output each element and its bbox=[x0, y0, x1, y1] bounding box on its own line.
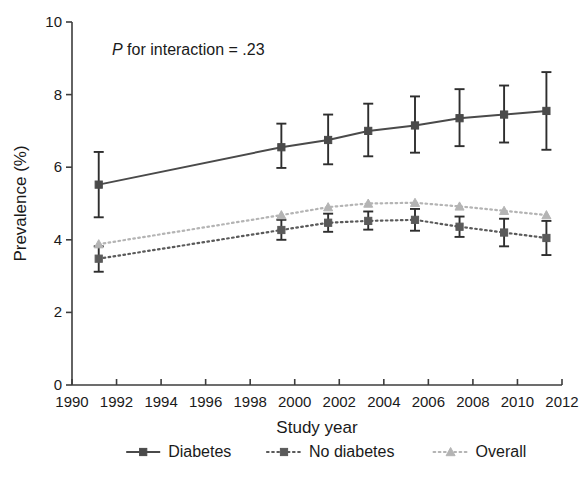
legend-label: Diabetes bbox=[168, 443, 231, 460]
data-point-marker bbox=[365, 217, 372, 224]
series-diabetes bbox=[94, 72, 552, 217]
data-point-marker bbox=[365, 127, 372, 134]
data-point-marker bbox=[500, 229, 507, 236]
y-axis-ticks: 0246810 bbox=[45, 13, 72, 393]
data-point-marker bbox=[325, 136, 332, 143]
y-tick-label: 8 bbox=[54, 86, 62, 103]
x-axis-title: Study year bbox=[276, 418, 358, 437]
x-axis-ticks: 1990199219941996199820002002200420062008… bbox=[55, 379, 578, 410]
chart-legend: DiabetesNo diabetesOverall bbox=[126, 443, 526, 460]
p-for-interaction-annotation: P for interaction = .23 bbox=[112, 41, 265, 58]
x-tick-label: 2008 bbox=[456, 393, 489, 410]
x-axis: 1990199219941996199820002002200420062008… bbox=[55, 379, 578, 437]
x-tick-label: 1998 bbox=[233, 393, 266, 410]
data-point-marker bbox=[280, 448, 287, 455]
data-point-marker bbox=[140, 448, 147, 455]
data-point-marker bbox=[543, 234, 550, 241]
legend-item-diabetes[interactable]: Diabetes bbox=[126, 443, 231, 460]
series-line bbox=[99, 220, 547, 259]
data-point-marker bbox=[542, 211, 551, 219]
y-tick-label: 0 bbox=[54, 376, 62, 393]
data-point-marker bbox=[456, 115, 463, 122]
y-tick-label: 2 bbox=[54, 303, 62, 320]
data-point-marker bbox=[411, 216, 418, 223]
series-layer bbox=[94, 72, 552, 272]
legend-label: No diabetes bbox=[309, 443, 394, 460]
x-tick-label: 2002 bbox=[323, 393, 356, 410]
legend-item-no-diabetes[interactable]: No diabetes bbox=[267, 443, 394, 460]
x-tick-label: 2000 bbox=[278, 393, 311, 410]
data-point-marker bbox=[94, 240, 103, 248]
x-tick-label: 2004 bbox=[367, 393, 400, 410]
x-tick-label: 2006 bbox=[412, 393, 445, 410]
x-tick-label: 1992 bbox=[100, 393, 133, 410]
annotation-rest: for interaction = .23 bbox=[123, 41, 265, 58]
x-tick-label: 2010 bbox=[501, 393, 534, 410]
prevalence-by-study-year-chart: 0246810 Prevalence (%) 19901992199419961… bbox=[0, 0, 588, 478]
chart-canvas: 0246810 Prevalence (%) 19901992199419961… bbox=[0, 0, 588, 478]
annotation-italic-p: P bbox=[112, 41, 123, 58]
data-point-marker bbox=[278, 226, 285, 233]
y-axis-title: Prevalence (%) bbox=[11, 145, 30, 261]
x-tick-label: 1996 bbox=[189, 393, 222, 410]
data-point-marker bbox=[500, 111, 507, 118]
y-axis: 0246810 Prevalence (%) bbox=[11, 13, 72, 393]
legend-item-overall[interactable]: Overall bbox=[434, 443, 527, 460]
data-point-marker bbox=[325, 219, 332, 226]
series-no-diabetes bbox=[94, 209, 552, 272]
series-line bbox=[99, 111, 547, 185]
data-point-marker bbox=[543, 107, 550, 114]
data-point-marker bbox=[95, 181, 102, 188]
data-point-marker bbox=[411, 122, 418, 129]
legend-label: Overall bbox=[476, 443, 527, 460]
data-point-marker bbox=[456, 223, 463, 230]
y-tick-label: 4 bbox=[54, 231, 62, 248]
data-point-marker bbox=[95, 255, 102, 262]
x-tick-label: 2012 bbox=[545, 393, 578, 410]
data-point-marker bbox=[278, 144, 285, 151]
y-tick-label: 6 bbox=[54, 158, 62, 175]
x-tick-label: 1994 bbox=[144, 393, 177, 410]
x-tick-label: 1990 bbox=[55, 393, 88, 410]
y-tick-label: 10 bbox=[45, 13, 62, 30]
